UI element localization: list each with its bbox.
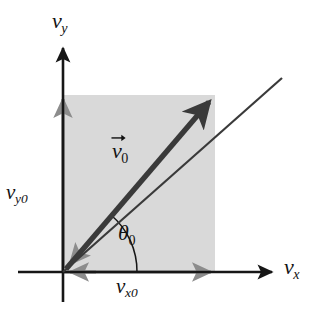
figure-canvas: vy vx vy0 vx0 v0 θ0 bbox=[0, 0, 321, 313]
angle-label-sub: 0 bbox=[128, 232, 135, 248]
y-component-label: vy0 bbox=[6, 182, 28, 203]
angle-label: θ0 bbox=[118, 222, 136, 244]
y-component-label-v: v bbox=[6, 180, 15, 204]
vector-diagram-svg bbox=[0, 0, 321, 313]
vector-label: v0 bbox=[112, 140, 129, 162]
x-component-label-sub: x0 bbox=[125, 285, 138, 300]
y-component-label-sub: y0 bbox=[15, 191, 28, 206]
x-component-label-v: v bbox=[116, 274, 125, 298]
y-axis-label: vy bbox=[52, 10, 68, 32]
x-axis-label: vx bbox=[284, 256, 300, 278]
vector-label-sub: 0 bbox=[121, 150, 128, 166]
y-axis-label-sub: y bbox=[61, 20, 67, 36]
x-axis-label-sub: x bbox=[293, 266, 299, 282]
x-component-label: vx0 bbox=[116, 276, 138, 297]
